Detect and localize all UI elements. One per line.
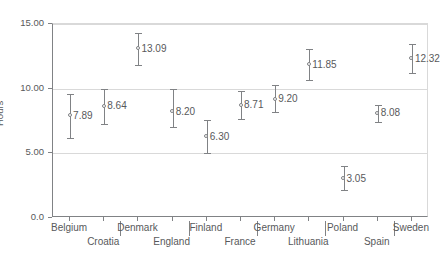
x-tick-mark (274, 217, 275, 221)
gridline (53, 89, 427, 90)
gridline (53, 153, 427, 154)
data-point-label: 12.32 (415, 54, 440, 64)
y-tick-mark (48, 217, 52, 218)
error-bar-cap-upper (238, 91, 245, 92)
error-bar-cap-upper (341, 166, 348, 167)
x-category-label-spain: Spain (332, 236, 422, 248)
error-bar-cap-upper (204, 120, 211, 121)
data-point-label: 13.09 (141, 44, 166, 54)
error-bar-cap-lower (375, 122, 382, 123)
y-tick-label: 5.00 (26, 147, 45, 157)
error-bar-cap-lower (170, 127, 177, 128)
x-tick-mark (206, 217, 207, 221)
x-tick-mark (240, 217, 241, 221)
error-bar-cap-lower (341, 190, 348, 191)
error-bar-cap-upper (409, 44, 416, 45)
error-bar-cap-upper (170, 89, 177, 90)
marker-icon (102, 104, 106, 108)
gridline (53, 24, 427, 25)
error-bar-chart: Hours 0.05.0010.0015.00 7.898.6413.098.2… (0, 0, 448, 264)
error-bar-cap-lower (101, 124, 108, 125)
error-bar-cap-lower (306, 80, 313, 81)
x-tick-mark (103, 217, 104, 221)
y-axis-title: Hours (0, 101, 5, 126)
marker-icon (273, 97, 277, 101)
x-tick-mark (308, 217, 309, 221)
x-tick-mark (172, 217, 173, 221)
error-bar-line (173, 89, 174, 127)
plot-area: 7.898.6413.098.206.308.719.2011.853.058.… (52, 23, 428, 217)
x-tick-mark (69, 217, 70, 221)
data-point-label: 6.30 (210, 132, 229, 142)
data-point-label: 8.71 (244, 100, 263, 110)
x-tick-mark (377, 217, 378, 221)
x-category-label-sweden: Sweden (366, 222, 448, 234)
data-point-label: 7.89 (73, 111, 92, 121)
error-bar-cap-lower (67, 138, 74, 139)
y-tick-label: 10.00 (20, 83, 44, 93)
marker-icon (239, 103, 243, 107)
error-bar-cap-upper (375, 105, 382, 106)
x-tick-mark (411, 217, 412, 221)
error-bar-cap-lower (409, 73, 416, 74)
error-bar-cap-lower (238, 119, 245, 120)
data-point-label: 3.05 (347, 174, 366, 184)
y-tick-label: 0.0 (31, 212, 44, 222)
data-point-label: 8.64 (107, 101, 126, 111)
y-tick-label: 15.00 (20, 18, 44, 28)
error-bar-cap-upper (67, 94, 74, 95)
error-bar-cap-lower (204, 153, 211, 154)
error-bar-cap-upper (272, 85, 279, 86)
error-bar-cap-upper (306, 49, 313, 50)
error-bar-cap-upper (135, 33, 142, 34)
error-bar-cap-upper (101, 89, 108, 90)
error-bar-cap-lower (135, 65, 142, 66)
data-point-label: 8.08 (381, 108, 400, 118)
data-point-label: 9.20 (278, 94, 297, 104)
x-tick-mark (137, 217, 138, 221)
data-point-label: 8.20 (176, 107, 195, 117)
error-bar-cap-lower (272, 112, 279, 113)
data-point-label: 11.85 (312, 60, 336, 70)
x-tick-mark (343, 217, 344, 221)
